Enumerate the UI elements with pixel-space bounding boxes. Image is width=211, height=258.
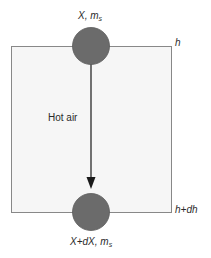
top-particle [73,28,110,65]
top-particle-label-sub: s [99,15,103,22]
bottom-particle-label: X+dX, ms [70,237,112,248]
bottom-particle-label-sub: s [109,241,113,248]
bottom-particle [73,194,110,231]
hot-air-label: Hot air [48,113,77,123]
height-top-label: h [175,38,181,48]
top-particle-label: X, ms [78,11,102,22]
height-bottom-label: h+dh [175,205,198,215]
top-particle-label-main: X, m [78,10,99,21]
bottom-particle-label-main: X+dX, m [70,236,109,247]
